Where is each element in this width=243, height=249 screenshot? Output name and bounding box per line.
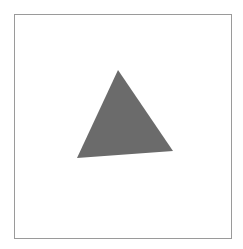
triangle-shape [77,70,173,158]
diagram-canvas [0,0,243,249]
